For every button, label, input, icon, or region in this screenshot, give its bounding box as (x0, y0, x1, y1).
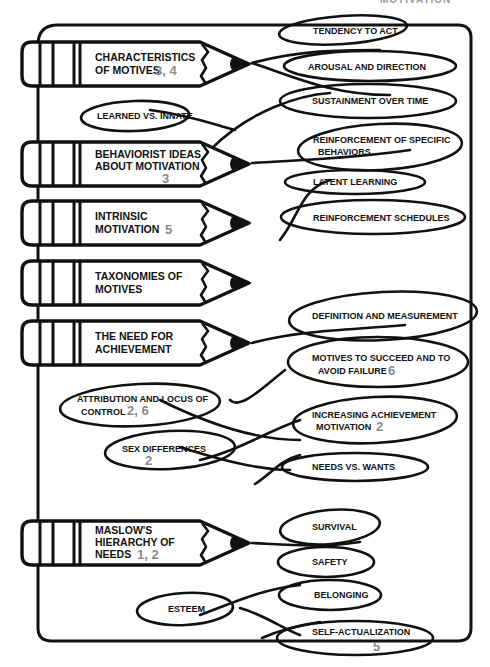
svg-text:REINFORCEMENT OF SPECIFIC: REINFORCEMENT OF SPECIFIC (313, 135, 451, 145)
svg-text:HIERARCHY OF: HIERARCHY OF (95, 536, 175, 548)
svg-text:MASLOW'S: MASLOW'S (95, 524, 152, 536)
svg-text:SURVIVAL: SURVIVAL (312, 522, 357, 532)
svg-text:CHARACTERISTICS: CHARACTERISTICS (95, 51, 195, 63)
svg-text:ESTEEM: ESTEEM (168, 604, 205, 614)
page-header: MOTIVATION (380, 0, 451, 5)
svg-text:SEX DIFFERENCES: SEX DIFFERENCES (122, 444, 206, 454)
svg-text:DEFINITION AND MEASUREMENT: DEFINITION AND MEASUREMENT (312, 311, 458, 321)
topic-pencil-taxonomies-of-motives: TAXONOMIES OF MOTIVES (22, 259, 252, 307)
subtopic-arousal-and-direction: AROUSAL AND DIRECTION (284, 51, 456, 81)
subtopic-reinforcement-schedules: REINFORCEMENT SCHEDULES (281, 200, 465, 234)
svg-text:3: 3 (162, 171, 169, 186)
svg-text:TAXONOMIES OF: TAXONOMIES OF (95, 270, 183, 282)
topic-pencil-need-for-achievement: THE NEED FOR ACHIEVEMENT (22, 319, 252, 367)
svg-text:NEEDS VS. WANTS: NEEDS VS. WANTS (312, 462, 395, 472)
svg-text:1, 2: 1, 2 (137, 547, 159, 562)
subtopic-reinforcement-of-specific-behaviors: REINFORCEMENT OF SPECIFIC BEHAVIORS (297, 120, 463, 175)
svg-text:REINFORCEMENT SCHEDULES: REINFORCEMENT SCHEDULES (313, 213, 450, 223)
svg-text:OF MOTIVES: OF MOTIVES (95, 64, 160, 76)
svg-text:2, 6: 2, 6 (127, 403, 149, 418)
svg-text:SAFETY: SAFETY (312, 557, 348, 567)
svg-text:5: 5 (165, 222, 172, 237)
svg-text:MOTIVES: MOTIVES (95, 283, 142, 295)
subtopic-increasing-achievement-motivation: INCREASING ACHIEVEMENT MOTIVATION 2 (292, 393, 458, 448)
svg-text:TENDENCY TO ACT: TENDENCY TO ACT (313, 26, 398, 36)
svg-text:INCREASING ACHIEVEMENT: INCREASING ACHIEVEMENT (312, 410, 437, 420)
svg-text:ACHIEVEMENT: ACHIEVEMENT (95, 343, 172, 355)
svg-text:CONTROL: CONTROL (81, 407, 126, 417)
svg-text:NEEDS: NEEDS (95, 548, 131, 560)
subtopic-learned-vs-innate: LEARNED VS. INNATE (81, 99, 193, 133)
svg-text:2: 2 (145, 453, 152, 468)
svg-text:INTRINSIC: INTRINSIC (95, 210, 148, 222)
svg-text:SELF-ACTUALIZATION: SELF-ACTUALIZATION (312, 627, 410, 637)
svg-text:BEHAVIORIST IDEAS: BEHAVIORIST IDEAS (95, 148, 201, 160)
topic-pencil-intrinsic-motivation: INTRINSIC MOTIVATION 5 (22, 199, 252, 247)
svg-text:LATENT LEARNING: LATENT LEARNING (313, 177, 397, 187)
svg-text:BEHAVIORS: BEHAVIORS (318, 147, 371, 157)
svg-text:ABOUT MOTIVATION: ABOUT MOTIVATION (95, 160, 200, 172)
subtopic-latent-learning: LATENT LEARNING (285, 170, 425, 194)
topic-pencil-maslows-hierarchy: MASLOW'S HIERARCHY OF NEEDS 1, 2 (22, 519, 252, 567)
subtopic-self-actualization: SELF-ACTUALIZATION 5 (277, 621, 433, 655)
subtopic-attribution-and-locus-of-control: ATTRIBUTION AND LOCUS OF CONTROL 2, 6 (59, 380, 221, 430)
svg-text:5: 5 (373, 639, 380, 654)
svg-text:6: 6 (388, 363, 395, 378)
svg-text:AROUSAL AND DIRECTION: AROUSAL AND DIRECTION (308, 62, 426, 72)
motivation-concept-map: MOTIVATION TENDENCY TO ACT AROUSAL AND D… (0, 0, 490, 667)
subtopic-tendency-to-act: TENDENCY TO ACT (278, 12, 408, 49)
subtopic-needs-vs-wants: NEEDS VS. WANTS (282, 453, 428, 481)
topic-pencil-characteristics-of-motives: CHARACTERISTICS OF MOTIVES 3, 4 (22, 40, 252, 88)
topic-pencil-behaviorist-ideas: BEHAVIORIST IDEAS ABOUT MOTIVATION 3 (22, 140, 252, 188)
svg-text:SUSTAINMENT OVER TIME: SUSTAINMENT OVER TIME (312, 96, 428, 106)
subtopic-sustainment-over-time: SUSTAINMENT OVER TIME (280, 84, 456, 118)
svg-text:BELONGING: BELONGING (314, 590, 369, 600)
subtopic-belonging: BELONGING (279, 580, 381, 610)
subtopic-motives-to-succeed: MOTIVES TO SUCCEED AND TO AVOID FAILURE … (288, 337, 468, 387)
svg-text:THE NEED FOR: THE NEED FOR (95, 330, 174, 342)
svg-text:2: 2 (376, 419, 383, 434)
subtopic-sex-differences: SEX DIFFERENCES 2 (104, 428, 236, 473)
svg-text:AVOID FAILURE: AVOID FAILURE (318, 366, 387, 376)
svg-text:MOTIVES TO SUCCEED AND TO: MOTIVES TO SUCCEED AND TO (312, 353, 450, 363)
svg-text:MOTIVATION: MOTIVATION (95, 223, 159, 235)
svg-text:3, 4: 3, 4 (155, 63, 177, 78)
subtopic-safety: SAFETY (278, 547, 374, 577)
svg-text:LEARNED VS. INNATE: LEARNED VS. INNATE (97, 111, 193, 121)
svg-text:MOTIVATION: MOTIVATION (316, 422, 371, 432)
subtopic-survival: SURVIVAL (279, 506, 382, 549)
